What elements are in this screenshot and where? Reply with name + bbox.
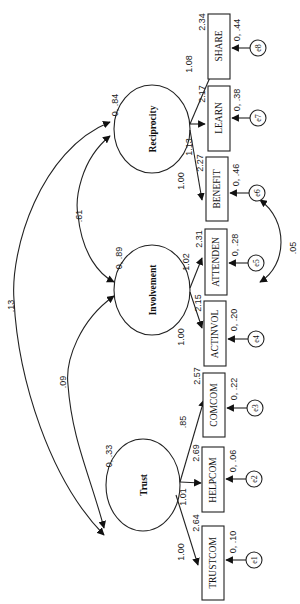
error-e6-label: e6	[253, 189, 262, 197]
indicator-attenden: ATTENDEN 2.31	[194, 229, 227, 295]
intercept-actinvol: 2.15	[193, 294, 203, 312]
error-e2: e2 0, .06	[226, 450, 262, 487]
error-e5-label: e5	[252, 259, 261, 267]
loading-actinvol: 1.00	[176, 328, 186, 346]
loading-benefit: 1.00	[176, 172, 186, 190]
error-e8-label: e8	[254, 44, 263, 52]
loading-comcom: .85	[178, 416, 188, 429]
error-e4-variance: 0, .20	[229, 309, 239, 332]
error-e7: e7 0, .38	[232, 89, 266, 126]
error-e1-label: e1	[250, 556, 259, 564]
covariance-arc-involvement-reciprocity	[77, 136, 114, 282]
loading-helpcom: 1.01	[178, 488, 188, 506]
intercept-share: 2.34	[197, 13, 207, 31]
error-e7-label: e7	[254, 114, 263, 122]
indicator-actinvol: ACTINVOL 2.15	[193, 294, 226, 366]
covariance-arc-trust-reciprocity	[14, 122, 110, 535]
loading-trustcom: 1.00	[176, 543, 186, 561]
error-e3-label: e3	[251, 404, 260, 412]
indicator-share: SHARE 2.34	[197, 13, 230, 79]
error-e1: e1 0, .10	[226, 531, 262, 568]
latent-reciprocity: Reciprocity 0, .84	[110, 85, 190, 173]
indicator-share-label: SHARE	[214, 30, 224, 61]
latent-trust-variance: 0, .33	[104, 445, 114, 468]
error-e3-variance: 0, .22	[229, 378, 239, 401]
error-e8: e8 0, .44	[232, 19, 266, 56]
error-e7-variance: 0, .38	[232, 89, 242, 112]
error-e4: e4 0, .20	[228, 309, 264, 347]
indicator-trustcom-label: TRUSTCOM	[208, 537, 218, 589]
covariance-label-trust-reciprocity: .13	[6, 300, 16, 313]
indicator-learn: LEARN 2.17	[197, 85, 230, 151]
loading-attenden: 1.02	[181, 253, 191, 271]
indicator-benefit-label: BENEFIT	[212, 169, 222, 208]
latent-involvement: Involvement 0, .89	[114, 245, 190, 335]
indicator-actinvol-label: ACTINVOL	[210, 310, 220, 359]
latent-involvement-variance: 0, .89	[114, 247, 124, 270]
latent-reciprocity-label: Reciprocity	[148, 105, 158, 152]
indicator-helpcom-label: HELPCOM	[208, 457, 218, 503]
path-trust-comcom	[180, 400, 204, 482]
path-trust-helpcom	[180, 482, 201, 483]
covariance-arc-e5-e6	[260, 200, 281, 282]
loading-learn: 1.13	[184, 138, 194, 156]
intercept-trustcom: 2.64	[191, 514, 201, 532]
intercept-comcom: 2.57	[192, 367, 202, 385]
intercept-benefit: 2.27	[195, 154, 205, 172]
covariance-label-e5-e6: .05	[288, 242, 298, 255]
covariance-label-trust-involvement: .09	[58, 376, 68, 389]
error-e1-variance: 0, .10	[228, 531, 238, 554]
sem-path-diagram: .13 .61 .09 .05 Reciprocity 0, .84 Invol…	[0, 0, 300, 604]
indicator-helpcom: HELPCOM 2.69	[191, 444, 224, 512]
error-e5-variance: 0, .28	[230, 234, 240, 257]
error-e2-label: e2	[250, 475, 259, 483]
path-involvement-attenden	[190, 258, 202, 288]
latent-trust-label: Trust	[139, 473, 149, 496]
error-e6-variance: 0, .46	[231, 164, 241, 187]
indicator-learn-label: LEARN	[214, 102, 224, 134]
latent-trust: Trust 0, .33	[104, 439, 180, 531]
error-e6: e6 0, .46	[230, 164, 265, 201]
intercept-learn: 2.17	[197, 85, 207, 103]
indicator-comcom: COMCOM 2.57	[192, 367, 225, 437]
intercept-attenden: 2.31	[194, 230, 204, 248]
loading-share: 1.08	[184, 55, 194, 73]
intercept-helpcom: 2.69	[191, 444, 201, 462]
latent-involvement-label: Involvement	[148, 264, 158, 316]
indicator-attenden-label: ATTENDEN	[211, 237, 221, 287]
error-e8-variance: 0, .44	[232, 19, 242, 42]
indicator-comcom-label: COMCOM	[209, 383, 219, 427]
error-e2-variance: 0, .06	[228, 450, 238, 473]
error-e4-label: e4	[252, 335, 261, 343]
latent-reciprocity-variance: 0, .84	[110, 94, 120, 117]
error-e5: e5 0, .28	[229, 234, 264, 271]
error-e3: e3 0, .22	[227, 378, 263, 416]
covariance-label-involvement-reciprocity: .61	[74, 210, 84, 223]
